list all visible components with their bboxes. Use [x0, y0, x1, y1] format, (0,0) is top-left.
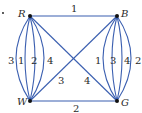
graph-diagram: R B W G 1 2 4 3 3 1 2 4 1 3 4 2	[0, 0, 142, 113]
weight-r-w-1: 3	[8, 55, 14, 66]
weight-b-g-2: 3	[110, 55, 116, 66]
weight-w-g: 2	[73, 103, 79, 113]
vertex-g	[115, 99, 119, 103]
vertex-label-g: G	[121, 97, 129, 108]
weight-b-g-3: 4	[124, 55, 130, 66]
weight-b-g-4: 2	[135, 55, 141, 66]
bullet-mark	[2, 12, 4, 14]
vertex-w	[28, 99, 32, 103]
vertex-label-r: R	[17, 8, 26, 19]
vertex-r	[28, 14, 32, 18]
weight-r-w-3: 2	[31, 55, 37, 66]
vertex-b	[115, 14, 119, 18]
weight-w-b: 3	[58, 75, 64, 86]
edge-r-w-2	[25, 16, 30, 101]
weight-r-w-4: 4	[47, 55, 53, 66]
weight-r-b: 1	[71, 3, 77, 14]
weight-r-g: 4	[84, 75, 90, 86]
edge-b-g-3	[117, 16, 122, 101]
vertex-label-w: W	[17, 96, 28, 107]
weight-b-g-1: 1	[95, 55, 101, 66]
vertex-label-b: B	[120, 8, 128, 19]
weight-r-w-2: 1	[18, 55, 24, 66]
